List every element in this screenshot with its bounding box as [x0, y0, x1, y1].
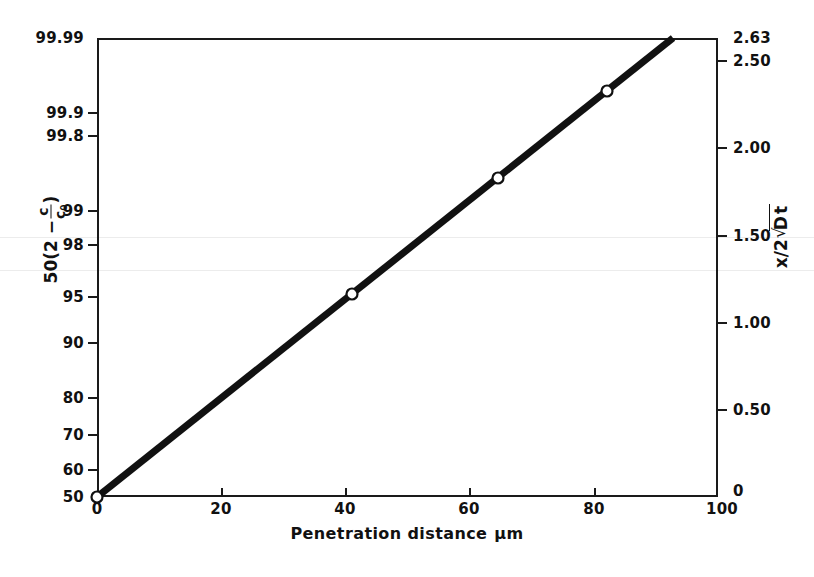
y-axis-title-left: 50(2 −cc0) [37, 100, 68, 380]
x-axis-tick [221, 488, 223, 497]
y-axis-tick-left [88, 469, 97, 471]
x-axis-tick [594, 488, 596, 497]
y-axis-label-left: 80 [0, 389, 84, 407]
fraction-c-over-c0: cc0 [36, 204, 67, 219]
x-axis-label: 60 [458, 500, 479, 518]
y-axis-title-suffix: ) [41, 196, 61, 204]
x-axis-tick [345, 488, 347, 497]
y-axis-tick-left [88, 296, 97, 298]
figure-caption [0, 568, 814, 577]
y-axis-tick-right [718, 147, 727, 149]
y-axis-label-left: 60 [0, 461, 84, 479]
square-root-group: √Dt [769, 204, 791, 238]
fraction-denominator: c0 [52, 204, 67, 219]
y-axis-label-right: 1.50 [733, 227, 771, 245]
x-axis-title-text: Penetration distance [290, 524, 487, 543]
x-axis-label: 40 [334, 500, 355, 518]
y-axis-tick-left [88, 342, 97, 344]
plot-area [97, 38, 718, 497]
fraction-numerator: c [36, 204, 52, 219]
x-axis-label: 20 [210, 500, 231, 518]
y-axis-right-prefix: x/2 [771, 239, 791, 268]
y-axis-tick-left [88, 112, 97, 114]
y-axis-tick-left [88, 244, 97, 246]
x-axis-label: 100 [706, 500, 738, 518]
y-axis-tick-right [718, 322, 727, 324]
y-axis-label-left: 70 [0, 426, 84, 444]
y-axis-label-right: 2.50 [733, 52, 771, 70]
y-axis-title-right: x/2√Dt [769, 96, 791, 376]
y-axis-label-right: 0.50 [733, 401, 771, 419]
figure-container: 99.99 99.9 99.8 99 98 95 90 80 70 60 50 … [0, 0, 814, 577]
y-axis-label-left: 99.99 [0, 29, 84, 47]
y-axis-tick-right [718, 60, 727, 62]
y-axis-title-prefix: 50(2 − [41, 220, 61, 283]
x-axis-label: 0 [92, 500, 103, 518]
y-axis-tick-right [718, 409, 727, 411]
y-axis-label-right: 1.00 [733, 314, 771, 332]
y-axis-label-right: 2.63 [733, 29, 771, 47]
y-axis-tick-left [88, 210, 97, 212]
y-axis-tick-left [88, 434, 97, 436]
x-axis-unit: μm [494, 524, 523, 543]
y-axis-label-right: 0 [733, 482, 744, 500]
y-axis-label-left: 50 [0, 488, 84, 506]
y-axis-label-right: 2.00 [733, 139, 771, 157]
y-axis-tick-right [718, 235, 727, 237]
y-axis-tick-left [88, 397, 97, 399]
x-axis-tick [469, 488, 471, 497]
radical-icon: √ [769, 227, 789, 238]
x-axis-label: 80 [583, 500, 604, 518]
x-axis-title: Penetration distanceμm [0, 524, 814, 543]
y-axis-tick-left [88, 135, 97, 137]
